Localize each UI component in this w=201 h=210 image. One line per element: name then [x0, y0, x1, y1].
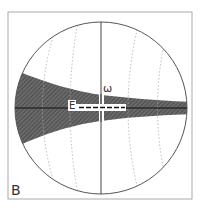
omega-label: ω [103, 82, 112, 95]
e-label: E [68, 100, 76, 111]
stereonet-diagram [0, 0, 201, 210]
panel-label: B [11, 182, 21, 198]
